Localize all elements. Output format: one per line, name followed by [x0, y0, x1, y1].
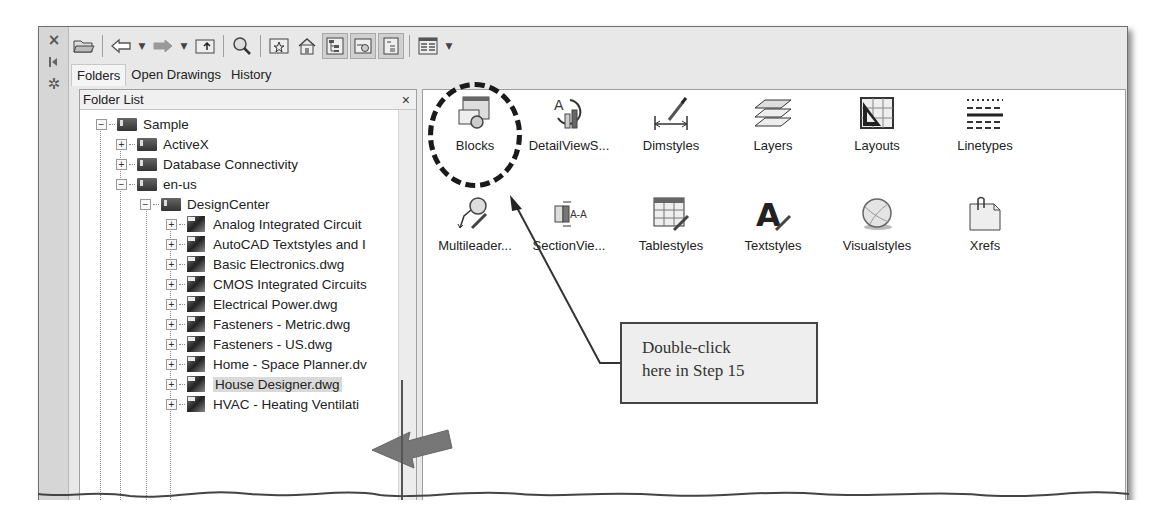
- content-item-dimstyles[interactable]: Dimstyles: [619, 96, 723, 153]
- folder-icon: [137, 158, 157, 171]
- content-item-multileader-styles[interactable]: Multileader...: [423, 196, 527, 253]
- tree-item-drawing[interactable]: + CMOS Integrated Circuits: [166, 274, 367, 294]
- expand-icon[interactable]: +: [116, 159, 127, 170]
- expand-icon[interactable]: +: [166, 239, 177, 250]
- svg-text:A-A: A-A: [570, 209, 587, 220]
- drawing-file-icon: [187, 256, 205, 272]
- views-icon[interactable]: [415, 33, 441, 59]
- dimstyles-icon: [651, 96, 691, 132]
- tree-guide-line: [120, 144, 121, 506]
- toolbar-separator: [409, 35, 410, 57]
- back-dropdown-icon[interactable]: ▼: [136, 41, 148, 51]
- tree-view-toggle-icon[interactable]: [322, 33, 348, 59]
- search-icon[interactable]: [229, 33, 255, 59]
- tree-item-activex[interactable]: + ActiveX: [116, 134, 209, 154]
- expand-icon[interactable]: +: [166, 379, 177, 390]
- folder-tree: − Sample + ActiveX + Database Connectivi…: [80, 112, 398, 506]
- tree-item-en-us[interactable]: − en-us: [116, 174, 197, 194]
- description-icon[interactable]: [378, 33, 404, 59]
- folder-list-header: Folder List ×: [80, 90, 416, 110]
- tab-folders[interactable]: Folders: [71, 64, 126, 86]
- expand-icon[interactable]: +: [166, 299, 177, 310]
- toolbar-separator: [260, 35, 261, 57]
- content-item-linetypes[interactable]: Linetypes: [933, 96, 1037, 153]
- tree-item-drawing[interactable]: + Basic Electronics.dwg: [166, 254, 344, 274]
- callout-line-2: here in Step 15: [642, 359, 816, 382]
- tree-item-database-connectivity[interactable]: + Database Connectivity: [116, 154, 298, 174]
- collapse-icon[interactable]: −: [116, 179, 127, 190]
- content-item-textstyles[interactable]: A Textstyles: [721, 196, 825, 253]
- layers-icon: [753, 96, 793, 132]
- drawing-file-icon: [187, 276, 205, 292]
- tree-item-drawing[interactable]: + HVAC - Heating Ventilati: [166, 394, 359, 414]
- forward-dropdown-icon[interactable]: ▼: [178, 41, 190, 51]
- linetypes-icon: [965, 96, 1005, 132]
- svg-text:A: A: [756, 196, 781, 232]
- content-item-tablestyles[interactable]: Tablestyles: [619, 196, 723, 253]
- folder-icon: [117, 118, 137, 131]
- folder-icon: [137, 178, 157, 191]
- folder-icon: [161, 198, 181, 211]
- highlight-circle-annotation: [428, 82, 522, 188]
- layouts-icon: [857, 96, 897, 132]
- tab-bar: Folders Open Drawings History: [71, 64, 276, 86]
- expand-icon[interactable]: +: [166, 219, 177, 230]
- content-item-layers[interactable]: Layers: [721, 96, 825, 153]
- expand-icon[interactable]: +: [166, 399, 177, 410]
- folder-list-title: Folder List: [83, 92, 144, 107]
- tab-open-drawings[interactable]: Open Drawings: [126, 64, 226, 86]
- tree-item-drawing[interactable]: + Home - Space Planner.dv: [166, 354, 367, 374]
- expand-icon[interactable]: +: [166, 279, 177, 290]
- expand-icon[interactable]: +: [166, 339, 177, 350]
- expand-icon[interactable]: +: [166, 259, 177, 270]
- up-folder-icon[interactable]: [192, 33, 218, 59]
- content-item-detail-view-styles[interactable]: A DetailViewS...: [517, 96, 621, 153]
- folder-icon: [137, 138, 157, 151]
- expand-icon[interactable]: +: [116, 139, 127, 150]
- close-icon[interactable]: ×: [402, 92, 410, 108]
- home-icon[interactable]: [294, 33, 320, 59]
- detail-view-styles-icon: A: [549, 96, 589, 132]
- drawing-file-icon: [187, 356, 205, 372]
- instruction-callout: Double-click here in Step 15: [620, 322, 818, 404]
- load-folder-icon[interactable]: [71, 33, 97, 59]
- visualstyles-icon: [857, 196, 897, 232]
- views-dropdown-icon[interactable]: ▼: [443, 41, 455, 51]
- properties-icon[interactable]: ✲: [45, 75, 63, 93]
- drawing-file-icon: [187, 376, 205, 392]
- drawing-file-icon: [187, 236, 205, 252]
- tree-item-designcenter[interactable]: − DesignCenter: [140, 194, 270, 214]
- tree-item-house-designer[interactable]: + House Designer.dwg: [166, 374, 342, 394]
- toolbar-separator: [102, 35, 103, 57]
- drawing-file-icon: [187, 336, 205, 352]
- content-item-visualstyles[interactable]: Visualstyles: [825, 196, 929, 253]
- content-item-layouts[interactable]: Layouts: [825, 96, 929, 153]
- drawing-file-icon: [187, 216, 205, 232]
- folder-list-panel: Folder List × − Sample + ActiveX + Datab…: [79, 89, 417, 507]
- textstyles-icon: A: [753, 196, 793, 232]
- collapse-icon[interactable]: −: [96, 119, 107, 130]
- back-icon[interactable]: [108, 33, 134, 59]
- content-item-section-view-styles[interactable]: A-A SectionVie...: [517, 196, 621, 253]
- callout-line-1: Double-click: [642, 336, 816, 359]
- tree-item-sample[interactable]: − Sample: [96, 114, 189, 134]
- tab-history[interactable]: History: [226, 64, 276, 86]
- palette-side-strip: × ✲: [39, 27, 69, 505]
- tree-item-drawing[interactable]: + Fasteners - US.dwg: [166, 334, 332, 354]
- close-icon[interactable]: ×: [45, 31, 63, 49]
- collapse-icon[interactable]: −: [140, 199, 151, 210]
- preview-icon[interactable]: [350, 33, 376, 59]
- tree-item-drawing[interactable]: + Fasteners - Metric.dwg: [166, 314, 350, 334]
- forward-icon[interactable]: [150, 33, 176, 59]
- design-center-window: × ✲ ▼ ▼: [38, 26, 1128, 506]
- folder-list-scrollbar[interactable]: [398, 110, 416, 506]
- expand-icon[interactable]: +: [166, 359, 177, 370]
- auto-hide-icon[interactable]: [45, 53, 63, 71]
- tree-item-drawing[interactable]: + AutoCAD Textstyles and I: [166, 234, 366, 254]
- tree-guide-line: [146, 204, 147, 506]
- expand-icon[interactable]: +: [166, 319, 177, 330]
- tree-item-drawing[interactable]: + Electrical Power.dwg: [166, 294, 338, 314]
- content-item-xrefs[interactable]: Xrefs: [933, 196, 1037, 253]
- tree-item-drawing[interactable]: + Analog Integrated Circuit: [166, 214, 362, 234]
- favorites-icon[interactable]: [266, 33, 292, 59]
